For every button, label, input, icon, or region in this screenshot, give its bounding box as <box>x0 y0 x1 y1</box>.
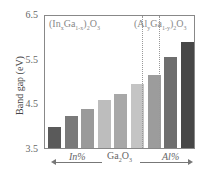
arrow-left-head-icon <box>51 159 56 165</box>
ga2o3-label: Ga2O3 <box>107 150 132 163</box>
divider-left <box>142 16 143 148</box>
y-tick-3-5: 3.5 <box>16 143 38 154</box>
bar-in-3 <box>65 116 78 148</box>
in-arrow <box>54 162 102 163</box>
arrow-right-head-icon <box>188 159 193 165</box>
in-percent-label: In% <box>69 151 86 162</box>
region-label-algao: (AlyGa1-y)2O3 <box>134 18 187 31</box>
plot-area: (InxGa1-x)2O3 (AlyGa1-y)2O3 <box>44 15 195 149</box>
y-tick-5-5: 5.5 <box>16 54 38 65</box>
bar-in-2 <box>81 109 94 148</box>
divider-right <box>159 16 160 148</box>
region-label-ingao: (InxGa1-x)2O3 <box>49 18 100 31</box>
y-tick-6-5: 6.5 <box>16 9 38 20</box>
bar-ga2o3 <box>114 94 127 148</box>
al-arrow <box>140 162 188 163</box>
band-gap-chart: Band gap (eV) 6.5 5.5 4.5 3.5 (InxGa1-x)… <box>0 0 207 172</box>
bar-al-4 <box>181 42 194 148</box>
bar-in-1 <box>98 100 111 148</box>
bar-in-4 <box>48 127 61 148</box>
bar-al-3 <box>164 57 177 148</box>
y-tick-4-5: 4.5 <box>16 98 38 109</box>
al-percent-label: Al% <box>162 151 179 162</box>
